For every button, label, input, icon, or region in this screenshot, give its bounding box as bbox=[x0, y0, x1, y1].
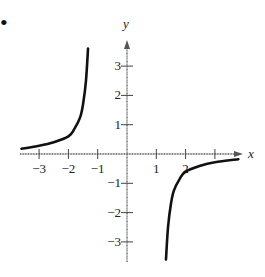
y-tick-label: 3 bbox=[115, 58, 122, 73]
function-graph: xy−3−2−112321−1−2−3 bbox=[0, 0, 265, 277]
x-tick-label: −2 bbox=[61, 161, 75, 176]
y-tick-label: 2 bbox=[115, 87, 122, 102]
x-tick-label: −1 bbox=[91, 161, 105, 176]
x-tick-label: 1 bbox=[153, 161, 160, 176]
curve-right-branch bbox=[166, 159, 238, 259]
curve-left-branch bbox=[22, 49, 89, 149]
x-tick-label: −3 bbox=[32, 161, 46, 176]
y-axis-arrow-icon bbox=[124, 40, 130, 49]
y-tick-label: −2 bbox=[107, 205, 121, 220]
y-axis-label: y bbox=[121, 16, 129, 31]
y-tick-label: 1 bbox=[115, 117, 122, 132]
x-axis-label: x bbox=[247, 146, 254, 161]
y-tick-label: −1 bbox=[107, 175, 121, 190]
x-axis-arrow-icon bbox=[234, 151, 243, 157]
y-tick-label: −3 bbox=[107, 234, 121, 249]
